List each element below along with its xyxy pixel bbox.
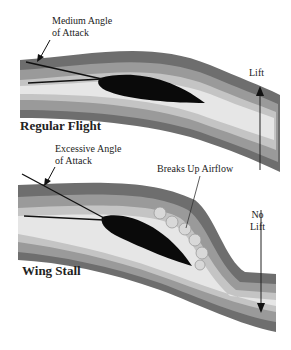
excessive-angle-label-line1: Excessive Angle — [55, 143, 121, 155]
stall-airflow — [18, 183, 276, 332]
no-lift-label: No Lift — [250, 209, 265, 233]
medium-angle-label-line1: Medium Angle — [52, 15, 112, 27]
lift-label: Lift — [249, 67, 264, 79]
medium-angle-label: Medium Angle of Attack — [52, 15, 112, 39]
medium-angle-label-line2: of Attack — [52, 27, 112, 39]
excessive-angle-label: Excessive Angle of Attack — [55, 143, 121, 167]
regular-flight-title: Regular Flight — [20, 118, 101, 134]
no-lift-label-line1: No — [250, 209, 265, 221]
no-lift-label-line2: Lift — [250, 221, 265, 233]
airflow-diagram — [0, 0, 291, 350]
excessive-angle-label-line2: of Attack — [55, 155, 121, 167]
wing-stall-title: Wing Stall — [22, 263, 81, 279]
breaks-up-airflow-label: Breaks Up Airflow — [157, 163, 233, 175]
annotation-arrow-top — [40, 40, 50, 58]
